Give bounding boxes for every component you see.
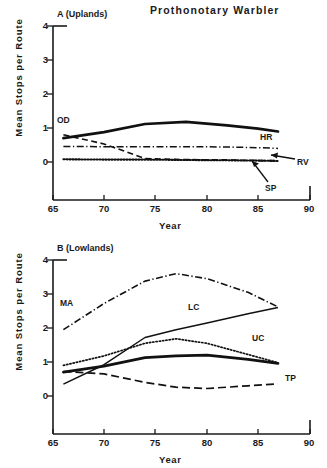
panel-b-plot <box>0 234 327 468</box>
series-line-ma <box>63 274 278 330</box>
panel-a-plot <box>0 0 327 234</box>
panel-uplands: A (Uplands) Mean Stops per Route 4 3 2 1… <box>0 0 327 234</box>
panel-lowlands: B (Lowlands) Mean Stops per Route 4 3 2 … <box>0 234 327 468</box>
series-line-lc <box>63 308 278 385</box>
series-line-hr <box>63 146 278 148</box>
series-line-tp <box>63 372 278 389</box>
series-line-uc <box>63 339 278 366</box>
series-line-od <box>63 122 278 138</box>
